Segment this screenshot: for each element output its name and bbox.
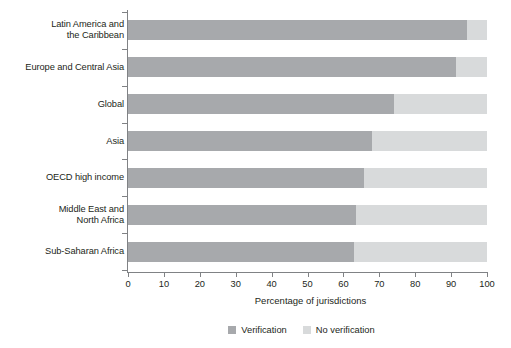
category-label: Europe and Central Asia	[0, 62, 124, 73]
stacked-bar-chart: Latin America and the CaribbeanEurope an…	[0, 0, 511, 348]
x-axis-tick	[415, 272, 416, 277]
bar-row	[128, 131, 487, 151]
y-axis-tick	[122, 159, 127, 160]
x-axis-tick-label: 90	[436, 279, 466, 290]
y-axis-tick	[122, 86, 127, 87]
bar-segment-no-verification	[372, 131, 487, 151]
x-axis-tick	[343, 272, 344, 277]
bar-segment-no-verification	[364, 168, 487, 188]
bar-segment-verification	[128, 57, 456, 77]
y-axis-tick	[122, 12, 127, 13]
category-label: Asia	[0, 136, 124, 147]
legend-label: No verification	[316, 325, 375, 335]
x-axis-tick	[308, 272, 309, 277]
x-axis-tick-label: 80	[400, 279, 430, 290]
bar-row	[128, 242, 487, 262]
x-axis-tick	[200, 272, 201, 277]
category-axis-labels: Latin America and the CaribbeanEurope an…	[0, 12, 124, 270]
plot-area	[128, 12, 487, 270]
category-label: Latin America and the Caribbean	[0, 19, 124, 41]
x-axis-tick-label: 20	[185, 279, 215, 290]
bar-row	[128, 94, 487, 114]
x-axis-tick	[164, 272, 165, 277]
x-axis-tick	[487, 272, 488, 277]
x-axis-tick	[128, 272, 129, 277]
x-axis-tick-label: 10	[149, 279, 179, 290]
category-label: OECD high income	[0, 172, 124, 183]
bar-row	[128, 57, 487, 77]
x-axis-tick-label: 70	[364, 279, 394, 290]
bar-segment-verification	[128, 94, 394, 114]
x-axis-tick	[236, 272, 237, 277]
bar-segment-no-verification	[354, 242, 487, 262]
bar-segment-no-verification	[456, 57, 487, 77]
y-axis-tick	[122, 49, 127, 50]
legend-swatch-icon	[228, 326, 236, 334]
x-axis-tick-label: 50	[293, 279, 323, 290]
bar-segment-verification	[128, 131, 372, 151]
bar-segment-verification	[128, 242, 354, 262]
x-axis-tick	[451, 272, 452, 277]
bar-row	[128, 205, 487, 225]
x-axis-tick	[379, 272, 380, 277]
legend-label: Verification	[241, 325, 286, 335]
x-axis-tick-label: 100	[472, 279, 502, 290]
y-axis-tick	[122, 270, 127, 271]
category-label: Sub-Saharan Africa	[0, 246, 124, 257]
x-axis-tick	[272, 272, 273, 277]
legend-item-verification: Verification	[228, 325, 286, 335]
x-axis-title: Percentage of jurisdictions	[0, 295, 511, 306]
y-axis-tick	[122, 196, 127, 197]
legend-item-noverification: No verification	[303, 325, 375, 335]
x-axis-tick-label: 40	[257, 279, 287, 290]
category-label: Global	[0, 99, 124, 110]
legend-swatch-icon	[303, 326, 311, 334]
chart-legend: VerificationNo verification	[0, 325, 511, 335]
y-axis-tick	[122, 233, 127, 234]
category-label: Middle East and North Africa	[0, 204, 124, 226]
x-axis-tick-label: 0	[113, 279, 143, 290]
bar-segment-no-verification	[356, 205, 487, 225]
bar-segment-no-verification	[394, 94, 487, 114]
x-axis-title-text: Percentage of jurisdictions	[145, 295, 366, 306]
bar-segment-no-verification	[467, 20, 487, 40]
bar-row	[128, 168, 487, 188]
bar-segment-verification	[128, 168, 364, 188]
x-axis-tick-label: 30	[221, 279, 251, 290]
y-axis-tick	[122, 123, 127, 124]
bar-row	[128, 20, 487, 40]
x-axis-tick-label: 60	[328, 279, 358, 290]
bar-segment-verification	[128, 205, 356, 225]
bar-segment-verification	[128, 20, 467, 40]
